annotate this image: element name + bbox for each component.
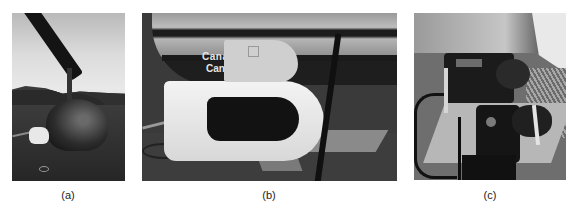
camera-upper-lens [496, 59, 530, 89]
photo-helicopter [12, 13, 125, 181]
helicopter-cabin [46, 99, 108, 151]
sensor-pod [29, 127, 49, 144]
pad-marking-circle [39, 166, 49, 172]
caption-a: (a) [48, 189, 88, 201]
pod-opening [532, 13, 566, 73]
cable-vertical [458, 117, 461, 180]
cable [414, 93, 457, 179]
caption-c: (c) [470, 189, 510, 201]
pod-lid [224, 40, 298, 82]
pod-window [207, 97, 299, 141]
lid-label [248, 46, 259, 57]
camera-mode-dial [486, 117, 496, 127]
battery-box [462, 155, 516, 180]
camera-lcd [456, 59, 482, 67]
rotor-blade [20, 13, 83, 81]
photo-sensor-pod: Canad Cany [142, 13, 397, 181]
caption-b: (b) [249, 189, 289, 201]
strap-left [444, 68, 448, 113]
photo-camera-mount [414, 13, 566, 180]
